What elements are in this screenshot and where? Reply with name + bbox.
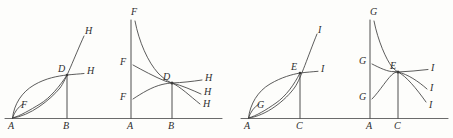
panel4-label-C: C	[394, 121, 401, 131]
panel4-label-G-mid: G	[359, 56, 366, 66]
panel1-point-D	[66, 74, 69, 77]
panel4-label-I-3: I	[429, 100, 432, 110]
panel1-label-B: B	[63, 121, 69, 131]
panel2-label-H-3: H	[203, 99, 210, 109]
panel2-label-H-2: H	[204, 87, 211, 97]
panel3-label-G: G	[257, 100, 264, 110]
panel4-label-A: A	[366, 121, 372, 131]
panel3-curve-lower-lens	[249, 73, 301, 118]
panel1-label-H-upper: H	[85, 26, 92, 36]
panel4-label-G-top: G	[370, 7, 377, 17]
panel2-label-B: B	[168, 121, 174, 131]
panel1-label-F: F	[21, 100, 27, 110]
panel4-label-I-1: I	[431, 63, 434, 73]
panel4-label-I-2: I	[430, 83, 433, 93]
panel4-label-G-low: G	[359, 92, 366, 102]
panel3-label-I-mid: I	[321, 64, 324, 74]
panel3-label-E: E	[291, 62, 297, 72]
panel1-label-A: A	[8, 121, 14, 131]
panel4-curve-middle	[372, 64, 427, 89]
panel2-label-D: D	[163, 72, 170, 82]
panel3-label-A: A	[244, 121, 250, 131]
figure-canvas	[0, 0, 453, 138]
panel3-curve-upper-lens	[249, 71, 319, 118]
panel1-label-D: D	[58, 64, 65, 74]
panel4-curve-flat	[372, 70, 428, 100]
panel3-label-I-upper: I	[318, 25, 321, 35]
panel3-point-E	[299, 72, 302, 75]
panel4-curve-steep	[374, 21, 426, 102]
panel3-label-C: C	[296, 121, 303, 131]
panel2-point-D	[171, 82, 174, 85]
panel4-label-E: E	[390, 61, 396, 71]
panel2-label-F-low: F	[120, 92, 126, 102]
panel2-label-A: A	[127, 121, 133, 131]
panel2-label-F-top: F	[131, 7, 137, 17]
panel2-label-H-1: H	[205, 73, 212, 83]
panel1-label-H-mid: H	[87, 66, 94, 76]
figure-page: A B D F H H A B D F F F H H H A C E G I …	[0, 0, 453, 138]
panel4-point-E	[397, 71, 400, 74]
panel2-label-F-mid: F	[120, 57, 126, 67]
panel1-curve-upper-lens	[13, 74, 85, 119]
